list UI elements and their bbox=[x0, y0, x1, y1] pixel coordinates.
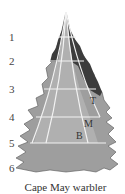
zone-label-tip: T bbox=[90, 96, 96, 106]
zone-label-middle: M bbox=[84, 119, 93, 129]
level-label-2: 2 bbox=[9, 56, 15, 67]
level-label-1: 1 bbox=[9, 32, 15, 43]
zone-label-base: B bbox=[76, 131, 83, 141]
spruce-tree-diagram bbox=[0, 0, 125, 194]
level-label-4: 4 bbox=[9, 112, 15, 123]
level-label-6: 6 bbox=[9, 163, 15, 174]
level-label-3: 3 bbox=[9, 84, 15, 95]
level-label-5: 5 bbox=[9, 138, 15, 149]
diagram-caption: Cape May warbler bbox=[0, 181, 125, 193]
